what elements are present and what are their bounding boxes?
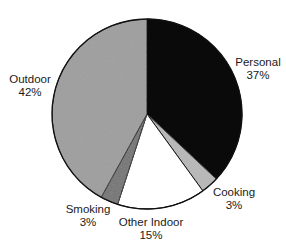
pie-slices (52, 19, 242, 209)
label-other-indoor-name: Other Indoor (119, 216, 184, 229)
pie-chart (0, 0, 286, 251)
label-smoking-pct: 3% (66, 216, 111, 229)
label-cooking: Cooking 3% (213, 186, 255, 212)
label-cooking-name: Cooking (213, 186, 255, 199)
label-smoking-name: Smoking (66, 203, 111, 216)
label-outdoor-name: Outdoor (9, 73, 51, 86)
label-other-indoor-pct: 15% (119, 229, 184, 242)
label-smoking: Smoking 3% (66, 203, 111, 229)
label-personal-name: Personal (235, 56, 280, 69)
label-outdoor-pct: 42% (9, 86, 51, 99)
label-other-indoor: Other Indoor 15% (119, 216, 184, 242)
label-cooking-pct: 3% (213, 199, 255, 212)
label-outdoor: Outdoor 42% (9, 73, 51, 99)
label-personal-pct: 37% (235, 69, 280, 82)
label-personal: Personal 37% (235, 56, 280, 82)
